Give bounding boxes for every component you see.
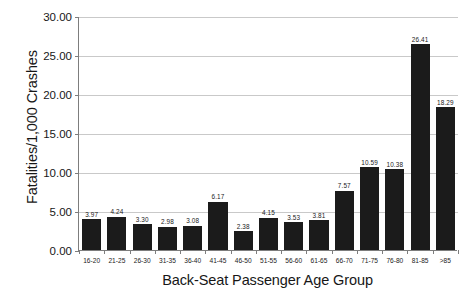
bar: [309, 220, 328, 250]
bar-slot: 2.38: [234, 17, 253, 250]
x-tick-mark: [281, 250, 282, 254]
y-tick-label: 0.00: [50, 245, 72, 257]
y-tick-mark: [75, 95, 79, 96]
bar-slot: 4.15: [259, 17, 278, 250]
bar: [208, 202, 227, 250]
y-axis-title: Fatalities/1,000 Crashes: [24, 9, 44, 245]
x-tick-label: 21-25: [108, 257, 125, 264]
y-tick-label: 20.00: [43, 89, 72, 101]
bar-value-label: 26.41: [412, 36, 429, 43]
bar: [411, 44, 430, 250]
bar-value-label: 10.59: [361, 159, 378, 166]
y-tick-mark: [75, 212, 79, 213]
bar-value-label: 2.38: [237, 223, 250, 230]
bar: [183, 226, 202, 250]
x-tick-label: 81-85: [412, 257, 429, 264]
bar-slot: 26.41: [411, 17, 430, 250]
x-tick-label: 26-30: [134, 257, 151, 264]
bar-slot: 3.53: [284, 17, 303, 250]
x-tick-label: 56-60: [285, 257, 302, 264]
y-tick-label: 30.00: [43, 11, 72, 23]
y-tick-label: 15.00: [43, 128, 72, 140]
x-tick-mark: [180, 250, 181, 254]
x-tick-mark: [205, 250, 206, 254]
bar: [360, 167, 379, 250]
y-tick-label: 10.00: [43, 167, 72, 179]
bar: [284, 222, 303, 250]
bar-slot: 3.81: [309, 17, 328, 250]
bar-value-label: 4.24: [110, 208, 123, 215]
bar-chart: Fatalities/1,000 Crashes 0.005.0010.0015…: [0, 0, 475, 305]
plot-area: 0.005.0010.0015.0020.0025.0030.00 3.974.…: [78, 17, 457, 251]
bar-slot: 2.98: [158, 17, 177, 250]
bar-value-label: 3.53: [287, 214, 300, 221]
x-tick-label: 76-80: [386, 257, 403, 264]
y-tick-label: 5.00: [50, 206, 72, 218]
bar-slot: 10.38: [385, 17, 404, 250]
bar-slot: 3.30: [133, 17, 152, 250]
bar-value-label: 18.29: [437, 99, 454, 106]
y-tick-label: 25.00: [43, 50, 72, 62]
x-tick-label: >85: [440, 257, 451, 264]
y-tick-mark: [75, 134, 79, 135]
x-tick-mark: [458, 250, 459, 254]
bar-slot: 6.17: [208, 17, 227, 250]
x-tick-mark: [79, 250, 80, 254]
x-tick-mark: [104, 250, 105, 254]
y-tick-mark: [75, 173, 79, 174]
bar-slot: 10.59: [360, 17, 379, 250]
y-tick-mark: [75, 56, 79, 57]
x-tick-mark: [256, 250, 257, 254]
x-tick-label: 71-75: [361, 257, 378, 264]
x-tick-label: 41-45: [210, 257, 227, 264]
bar-value-label: 3.30: [136, 216, 149, 223]
bar: [385, 169, 404, 250]
x-tick-mark: [382, 250, 383, 254]
bar-value-label: 6.17: [212, 193, 225, 200]
x-tick-label: 51-55: [260, 257, 277, 264]
bar: [234, 231, 253, 250]
bar: [133, 224, 152, 250]
bar-value-label: 4.15: [262, 209, 275, 216]
bar-slot: 4.24: [107, 17, 126, 250]
x-tick-mark: [433, 250, 434, 254]
bar-value-label: 3.81: [313, 212, 326, 219]
x-tick-mark: [231, 250, 232, 254]
bar-value-label: 3.08: [186, 217, 199, 224]
bar: [107, 217, 126, 250]
bar-slot: 7.57: [335, 17, 354, 250]
x-tick-mark: [155, 250, 156, 254]
bar: [335, 191, 354, 250]
x-tick-label: 31-35: [159, 257, 176, 264]
bar-slot: 3.08: [183, 17, 202, 250]
x-tick-mark: [357, 250, 358, 254]
bar: [259, 218, 278, 250]
x-tick-mark: [407, 250, 408, 254]
bar-slot: 3.97: [82, 17, 101, 250]
x-tick-label: 46-50: [235, 257, 252, 264]
x-tick-label: 16-20: [83, 257, 100, 264]
bar-value-label: 3.97: [85, 211, 98, 218]
x-tick-mark: [130, 250, 131, 254]
bar-slot: 18.29: [436, 17, 455, 250]
bar-value-label: 7.57: [338, 182, 351, 189]
x-tick-label: 36-40: [184, 257, 201, 264]
x-tick-label: 61-65: [311, 257, 328, 264]
x-tick-label: 66-70: [336, 257, 353, 264]
x-tick-mark: [332, 250, 333, 254]
bar-value-label: 10.38: [387, 161, 404, 168]
bar: [436, 107, 455, 250]
x-axis-title: Back-Seat Passenger Age Group: [78, 272, 457, 288]
y-tick-mark: [75, 17, 79, 18]
bar: [158, 227, 177, 250]
bar-value-label: 2.98: [161, 218, 174, 225]
bar: [82, 219, 101, 250]
x-tick-mark: [306, 250, 307, 254]
